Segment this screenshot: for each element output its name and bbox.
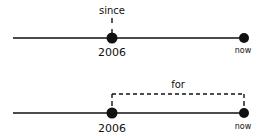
now-point-dot bbox=[239, 33, 249, 43]
start-point-dot bbox=[107, 33, 118, 44]
start-year-label: 2006 bbox=[98, 122, 126, 135]
for-label: for bbox=[171, 79, 186, 90]
since-for-diagram: since 2006 now for 2006 now bbox=[0, 0, 264, 136]
bottom-timeline: for 2006 now bbox=[13, 79, 252, 135]
top-timeline: since 2006 now bbox=[13, 5, 252, 59]
now-label: now bbox=[235, 46, 252, 55]
start-point-dot bbox=[107, 108, 118, 119]
since-label: since bbox=[99, 5, 125, 16]
now-label: now bbox=[235, 122, 252, 131]
now-point-dot bbox=[239, 108, 249, 118]
start-year-label: 2006 bbox=[98, 46, 126, 59]
